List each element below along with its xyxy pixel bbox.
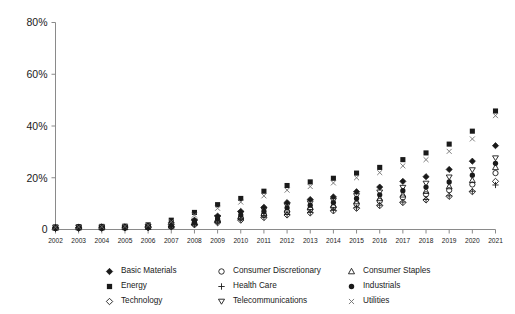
data-point: [331, 176, 336, 181]
data-point: [446, 166, 452, 172]
data-point: [492, 143, 498, 149]
data-point: [331, 200, 336, 205]
data-point: [285, 183, 290, 188]
x-axis: 2002200320042005200620072008200920102011…: [48, 230, 503, 245]
x-tick-label: 2014: [326, 237, 341, 244]
series-consumer-staples: [53, 164, 499, 230]
data-point: [447, 179, 452, 184]
data-point: [308, 179, 313, 184]
data-point: [469, 158, 475, 164]
data-point: [354, 196, 359, 201]
chart-plot-area: 020%40%60%80% 20022003200420052006200720…: [0, 0, 515, 260]
data-point: [400, 199, 406, 205]
data-point: [377, 184, 383, 190]
data-point: [493, 108, 498, 113]
filled-square-icon: [104, 281, 115, 292]
data-point: [377, 170, 382, 175]
data-point: [261, 189, 266, 194]
y-tick-label: 60%: [26, 68, 47, 80]
data-point: [192, 210, 197, 215]
data-point: [400, 157, 405, 162]
data-point: [122, 225, 127, 230]
series-health-care: [52, 182, 498, 231]
legend-item[interactable]: Utilities: [346, 296, 466, 307]
data-point: [470, 173, 475, 178]
legend-label: Telecommunications: [233, 297, 307, 305]
x-tick-label: 2009: [210, 237, 225, 244]
legend-item[interactable]: Health Care: [216, 281, 346, 292]
x-tick-label: 2019: [442, 237, 457, 244]
data-point: [215, 216, 220, 221]
x-tick-label: 2010: [233, 237, 248, 244]
data-point: [423, 150, 428, 155]
data-point: [423, 174, 429, 180]
legend-label: Energy: [121, 282, 147, 290]
chart-page: 020%40%60%80% 20022003200420052006200720…: [0, 0, 515, 314]
legend-label: Utilities: [363, 297, 389, 305]
series-telecommunications: [53, 156, 499, 230]
legend-item[interactable]: Consumer Discretionary: [216, 266, 346, 277]
data-point: [331, 180, 336, 185]
data-point: [284, 205, 289, 210]
x-tick-label: 2021: [488, 237, 503, 244]
data-point: [238, 212, 243, 217]
series-basic-materials: [52, 143, 498, 231]
data-point: [469, 168, 475, 173]
x-tick-label: 2008: [187, 237, 202, 244]
open-circle-icon: [216, 266, 227, 277]
data-point: [470, 136, 475, 141]
y-tick-label: 80%: [26, 16, 47, 28]
data-point: [493, 161, 498, 166]
x-tick-label: 2013: [303, 237, 318, 244]
series-consumer-discretionary: [53, 170, 498, 230]
y-tick-label: 20%: [26, 172, 47, 184]
down-triangle-icon: [216, 296, 227, 307]
legend-label: Technology: [121, 297, 162, 305]
scatter-chart-svg: 020%40%60%80% 20022003200420052006200720…: [0, 0, 515, 260]
y-tick-label: 40%: [26, 120, 47, 132]
data-point: [447, 149, 452, 154]
legend-item[interactable]: Basic Materials: [104, 266, 216, 277]
plus-icon: [216, 281, 227, 292]
data-point: [354, 171, 359, 176]
data-points-layer: [52, 108, 498, 231]
data-point: [493, 156, 499, 161]
data-point: [423, 196, 429, 202]
data-point: [447, 188, 452, 193]
x-tick-label: 2018: [419, 237, 434, 244]
legend-item[interactable]: Consumer Staples: [346, 266, 466, 277]
legend-item[interactable]: Telecommunications: [216, 296, 346, 307]
filled-circle-icon: [346, 281, 357, 292]
data-point: [400, 163, 405, 168]
legend-label: Health Care: [233, 282, 277, 290]
x-tick-label: 2007: [164, 237, 179, 244]
data-point: [99, 225, 104, 230]
x-tick-label: 2003: [71, 237, 86, 244]
legend-item[interactable]: Technology: [104, 296, 216, 307]
data-point: [446, 193, 452, 199]
series-industrials: [53, 161, 498, 231]
legend-grid: Basic MaterialsConsumer DiscretionaryCon…: [104, 264, 466, 309]
filled-diamond-icon: [104, 266, 115, 277]
data-point: [424, 157, 429, 162]
data-point: [423, 184, 428, 189]
data-point: [308, 184, 313, 189]
series-energy: [53, 108, 498, 229]
data-point: [447, 142, 452, 147]
series-utilities: [53, 113, 498, 229]
x-tick-label: 2005: [118, 237, 133, 244]
legend-item[interactable]: Industrials: [346, 281, 466, 292]
data-point: [493, 113, 498, 118]
data-point: [377, 165, 382, 170]
data-point: [400, 178, 406, 184]
data-point: [423, 192, 428, 197]
x-tick-label: 2004: [94, 237, 109, 244]
x-tick-label: 2020: [465, 237, 480, 244]
cross-icon: [346, 296, 357, 307]
x-tick-label: 2012: [280, 237, 295, 244]
series-technology: [52, 178, 498, 231]
data-point: [261, 193, 266, 198]
x-tick-label: 2006: [141, 237, 156, 244]
x-tick-label: 2011: [257, 237, 272, 244]
legend-item[interactable]: Energy: [104, 281, 216, 292]
